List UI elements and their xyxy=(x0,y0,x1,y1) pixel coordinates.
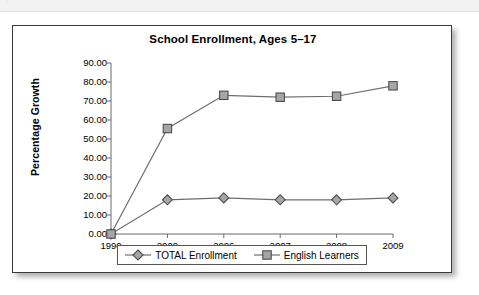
data-point-marker xyxy=(332,92,340,100)
data-point-marker xyxy=(276,93,284,101)
data-point-marker xyxy=(220,91,228,99)
series-line xyxy=(111,198,393,234)
series-line xyxy=(111,86,393,234)
legend-diamond-icon xyxy=(125,249,151,261)
data-point-marker xyxy=(275,195,285,205)
data-point-marker xyxy=(107,230,115,238)
legend-entry[interactable]: TOTAL Enrollment xyxy=(125,249,237,261)
legend-label: TOTAL Enrollment xyxy=(155,250,237,261)
plot-area xyxy=(13,26,453,274)
legend-entry[interactable]: English Learners xyxy=(254,249,359,261)
page-top-strip: · xyxy=(0,0,479,12)
data-point-marker xyxy=(389,82,397,90)
data-point-marker xyxy=(163,124,171,132)
chart-figure-frame: School Enrollment, Ages 5–17 Percentage … xyxy=(12,25,452,273)
data-point-marker xyxy=(388,193,398,203)
data-point-marker xyxy=(219,193,229,203)
legend-label: English Learners xyxy=(284,250,359,261)
chart-legend: TOTAL EnrollmentEnglish Learners xyxy=(117,245,367,265)
data-point-marker xyxy=(162,195,172,205)
data-point-marker xyxy=(332,195,342,205)
ghost-text: · xyxy=(6,0,9,6)
legend-square-icon xyxy=(254,249,280,261)
